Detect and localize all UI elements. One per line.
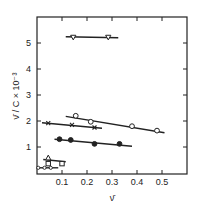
y-tick-label: 4 <box>26 64 31 74</box>
squares-marker <box>60 161 64 165</box>
x-tick-label: 0.3 <box>106 177 119 187</box>
inverted-triangles-marker <box>71 35 76 40</box>
inverted-triangles-marker <box>106 35 111 40</box>
y-tick-label: 5 <box>26 38 31 48</box>
y-tick-label: 3 <box>26 90 31 100</box>
filled-circles-marker <box>57 137 62 142</box>
open-circles-marker <box>88 119 93 124</box>
squares-marker <box>46 161 50 165</box>
fit-lines <box>37 37 165 168</box>
chart: 0.10.20.30.40.512345 ν̄ ν̄ / C × 10⁻³ <box>0 0 202 212</box>
triangles-marker <box>46 155 51 160</box>
x-tick-label: 0.5 <box>156 177 169 187</box>
x-tick-label: 0.4 <box>131 177 144 187</box>
x-tick-label: 0.2 <box>81 177 94 187</box>
x-tick-label: 0.1 <box>56 177 69 187</box>
open-circles-marker <box>155 128 160 133</box>
x-axis-label: ν̄ <box>110 193 117 203</box>
y-tick-label: 2 <box>26 116 31 126</box>
filled-circles-marker <box>92 141 97 146</box>
plot-frame <box>37 17 187 174</box>
filled-circles-marker <box>68 138 73 143</box>
crossed-circles-marker <box>43 166 46 169</box>
filled-circles-marker <box>117 141 122 146</box>
open-circles-fit-line <box>66 116 165 132</box>
crossed-circles-marker <box>49 166 52 169</box>
y-tick-label: 1 <box>26 142 31 152</box>
y-axis-label: ν̄ / C × 10⁻³ <box>11 73 21 120</box>
crossed-circles-marker <box>37 166 40 169</box>
open-circles-marker <box>130 124 135 129</box>
open-circles-marker <box>73 113 78 118</box>
data-markers <box>37 35 160 169</box>
